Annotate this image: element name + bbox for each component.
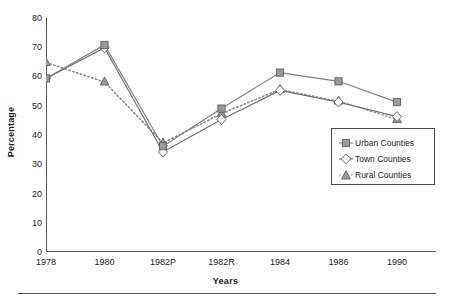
square-marker-icon <box>339 136 353 150</box>
chart-legend: Urban Counties Town Counties Rural Count… <box>331 128 435 185</box>
data-point-urban-1990 <box>393 99 400 106</box>
y-tick-label-80: 80 <box>20 14 42 23</box>
y-tick-label-20: 20 <box>20 190 42 199</box>
y-axis-title: Percentage <box>6 92 16 172</box>
legend-label-rural: Rural Counties <box>353 170 411 180</box>
x-tick-label-1982p: 1982P <box>150 258 176 267</box>
y-tick-label-50: 50 <box>20 102 42 111</box>
x-tick-label-1986: 1986 <box>328 258 348 267</box>
x-tick-label-1990: 1990 <box>387 258 407 267</box>
x-tick-label-1980: 1980 <box>94 258 114 267</box>
data-point-urban-1984 <box>276 69 283 76</box>
y-tick-label-40: 40 <box>20 131 42 140</box>
x-tick-label-1982r: 1982R <box>208 258 235 267</box>
x-tick-label-1984: 1984 <box>270 258 290 267</box>
data-point-town-1986 <box>334 97 343 107</box>
x-tick-label-1978: 1978 <box>36 258 56 267</box>
data-point-urban-1986 <box>335 78 342 85</box>
y-tick-label-70: 70 <box>20 43 42 52</box>
data-point-urban-1980 <box>101 41 108 48</box>
diamond-marker-icon <box>339 152 353 166</box>
triangle-marker-icon <box>339 168 353 182</box>
y-tick-label-10: 10 <box>20 219 42 228</box>
data-point-rural-1980 <box>100 77 109 85</box>
data-point-town-1984 <box>275 85 284 95</box>
legend-item-town: Town Counties <box>339 151 434 166</box>
legend-item-urban: Urban Counties <box>339 135 434 150</box>
y-tick-label-30: 30 <box>20 160 42 169</box>
y-tick-label-60: 60 <box>20 72 42 81</box>
bottom-divider <box>18 293 436 294</box>
legend-item-rural: Rural Counties <box>339 167 434 182</box>
x-axis-title: Years <box>0 276 451 286</box>
data-point-urban-1978 <box>46 75 50 82</box>
legend-label-town: Town Counties <box>353 154 411 164</box>
legend-label-urban: Urban Counties <box>353 138 414 148</box>
y-tick-label-0: 0 <box>20 248 42 257</box>
data-point-urban-1982r <box>218 105 225 112</box>
chart-figure: Percentage 80 70 60 50 40 30 20 10 0 <box>0 0 451 302</box>
data-point-rural-1978 <box>46 58 50 66</box>
data-point-urban-1982p <box>159 143 166 150</box>
